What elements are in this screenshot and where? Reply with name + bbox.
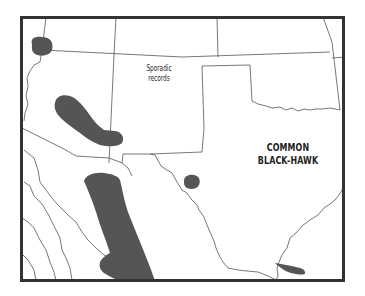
border-colorado-new-mexico-kansas: [182, 52, 330, 57]
range-map: Sporadic records COMMON BLACK-HAWK: [0, 0, 365, 296]
border-utah-colorado: [114, 17, 116, 55]
mexico-state-line-5: [122, 163, 132, 176]
border-oklahoma-panhandle: [202, 65, 250, 66]
border-utah-arizona: [42, 50, 182, 57]
range-nevada-utah-spot: [32, 37, 53, 56]
range-texas-trans-pecos-spot: [184, 175, 200, 189]
sporadic-records-label: Sporadic records: [145, 64, 174, 84]
species-label: COMMON BLACK-HAWK: [252, 141, 324, 167]
border-new-mexico-texas: [202, 66, 204, 128]
mexico-state-line-3: [22, 218, 56, 281]
border-texas-panhandle-east: [250, 65, 252, 101]
annotation-line-1: Sporadic: [145, 64, 174, 74]
border-new-mexico-south: [150, 128, 204, 154]
border-california-arizona: [24, 50, 42, 121]
border-colorado-kansas: [217, 17, 218, 57]
range-arizona-central: [55, 95, 124, 146]
annotation-line-2: records: [145, 74, 174, 84]
range-mexico-sinaloa: [100, 250, 138, 281]
range-texas-rio-grande-valley: [275, 263, 305, 275]
border-red-river: [252, 101, 340, 111]
mexico-state-line-4: [22, 254, 36, 281]
border-arizona-new-mexico: [109, 55, 114, 163]
border-eastern-states: [323, 17, 340, 110]
species-label-line-2: BLACK-HAWK: [252, 154, 324, 167]
species-label-line-1: COMMON: [252, 141, 324, 154]
